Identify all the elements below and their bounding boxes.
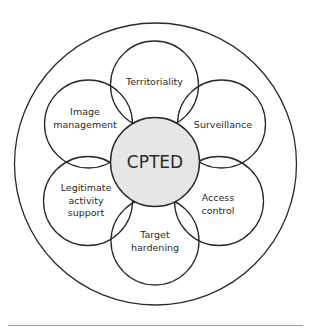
- petal-label-image-management: Image: [70, 106, 100, 117]
- petal-label-surveillance: Surveillance: [194, 119, 252, 130]
- petal-label-access-control: control: [202, 205, 235, 216]
- petal-label-territoriality: Territoriality: [125, 76, 183, 87]
- bottom-rule: [8, 325, 303, 327]
- petal-label-target-hardening: hardening: [131, 242, 179, 253]
- cpted-diagram: CPTED TerritorialitySurveillanceAccessco…: [0, 0, 313, 331]
- petal-label-legitimate-activity-support: support: [68, 207, 105, 218]
- petal-label-target-hardening: Target: [139, 229, 170, 240]
- petal-label-legitimate-activity-support: Legitimate: [61, 182, 112, 193]
- petal-label-legitimate-activity-support: activity: [68, 195, 103, 206]
- petal-label-access-control: Access: [202, 192, 235, 203]
- petal-label-image-management: management: [53, 119, 117, 130]
- core-label: CPTED: [127, 152, 183, 172]
